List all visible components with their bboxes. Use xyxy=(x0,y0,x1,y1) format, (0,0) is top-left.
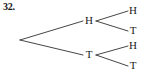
node-label-leaf-ht: T xyxy=(128,25,138,36)
edge-root-to-h xyxy=(20,21,83,40)
edge-h-to-ht xyxy=(96,21,128,31)
tree-edges-svg xyxy=(0,0,148,77)
tree-diagram-figure: 32. H T H T H T xyxy=(0,0,148,77)
edge-h-to-hh xyxy=(96,11,128,21)
edge-group xyxy=(20,11,128,66)
edge-t-to-tt xyxy=(96,55,128,66)
edge-t-to-th xyxy=(96,46,128,55)
node-label-level1-t: T xyxy=(84,49,94,60)
node-label-leaf-tt: T xyxy=(128,60,138,71)
node-label-leaf-hh: H xyxy=(128,5,138,16)
edge-root-to-t xyxy=(20,40,83,55)
node-label-level1-h: H xyxy=(84,15,94,26)
node-label-leaf-th: H xyxy=(128,40,138,51)
